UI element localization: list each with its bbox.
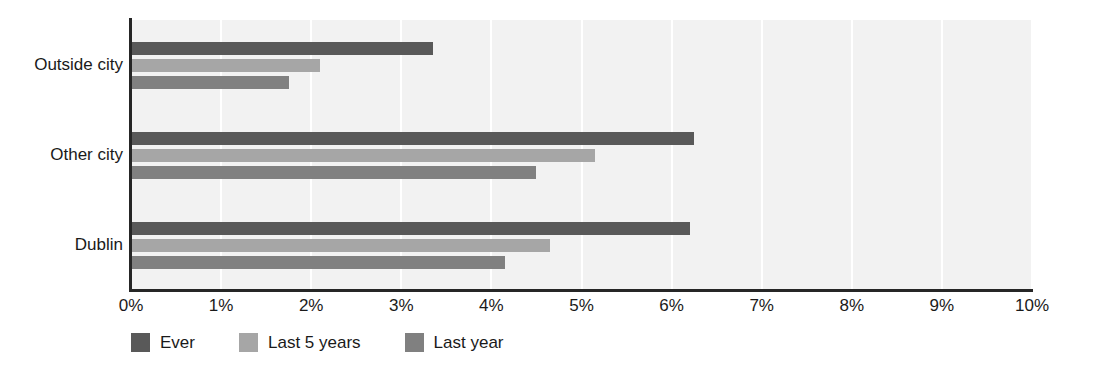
bars-layer (131, 20, 1032, 290)
legend-item[interactable]: Last year (405, 333, 504, 352)
bar (131, 132, 694, 145)
bar (131, 59, 320, 72)
x-axis-tick-labels: 0%1%2%3%4%5%6%7%8%9%10% (0, 294, 1093, 320)
bar (131, 149, 595, 162)
x-axis-tick-label: 2% (299, 294, 324, 318)
legend-swatch-icon (405, 333, 424, 352)
plot-area (131, 20, 1032, 290)
x-axis-tick-label: 4% (479, 294, 504, 318)
y-axis-line (129, 18, 132, 292)
x-axis-tick-label: 0% (119, 294, 144, 318)
y-axis-category-labels: Outside cityOther cityDublin (0, 20, 123, 290)
legend-item[interactable]: Ever (131, 333, 195, 352)
x-axis-tick-label: 3% (389, 294, 414, 318)
y-axis-label: Other city (0, 145, 123, 165)
x-axis-tick-label: 6% (659, 294, 684, 318)
x-axis-line (129, 289, 1033, 292)
legend-item[interactable]: Last 5 years (239, 333, 361, 352)
legend-swatch-icon (239, 333, 258, 352)
x-axis-tick-label: 10% (1015, 294, 1049, 318)
bar (131, 222, 690, 235)
x-axis-tick-label: 1% (209, 294, 234, 318)
bar (131, 166, 536, 179)
x-axis-tick-label: 5% (569, 294, 594, 318)
legend-label: Ever (160, 333, 195, 352)
x-axis-tick-label: 7% (749, 294, 774, 318)
y-axis-label: Outside city (0, 55, 123, 75)
legend-label: Last year (434, 333, 504, 352)
x-axis-tick-label: 8% (840, 294, 865, 318)
legend-label: Last 5 years (268, 333, 361, 352)
bar (131, 42, 433, 55)
bar (131, 256, 505, 269)
x-axis-tick-label: 9% (930, 294, 955, 318)
bar (131, 239, 550, 252)
bar (131, 76, 289, 89)
horizontal-bar-chart: Outside cityOther cityDublin 0%1%2%3%4%5… (0, 0, 1093, 384)
chart-legend: EverLast 5 yearsLast year (131, 333, 504, 352)
legend-swatch-icon (131, 333, 150, 352)
y-axis-label: Dublin (0, 235, 123, 255)
